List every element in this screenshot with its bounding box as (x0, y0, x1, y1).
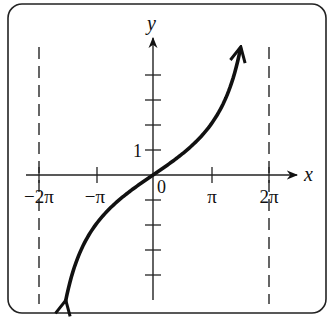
y-tick-label-1: 1 (133, 141, 142, 161)
y-axis-label: y (145, 12, 156, 35)
x-tick-label-2pi: 2π (259, 186, 279, 207)
x-tick-label-neg-2pi: −2π (24, 186, 54, 207)
origin-label: 0 (157, 177, 166, 197)
graph-canvas: y x 0 1 −2π −π π 2π (0, 0, 328, 325)
graph-frame (8, 4, 326, 313)
x-tick-label-pi: π (207, 186, 217, 207)
x-axis-label: x (303, 163, 313, 185)
x-tick-label-neg-pi: −π (85, 186, 106, 207)
